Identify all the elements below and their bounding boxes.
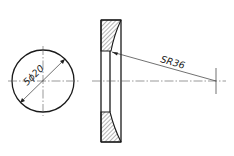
section-hatch-bottom: [101, 112, 121, 142]
section-hatch-top: [101, 20, 121, 51]
diameter-dimension-text: 5ϕ20: [21, 63, 46, 88]
technical-drawing: 5ϕ20 SR36: [0, 0, 234, 156]
front-view: 5ϕ20: [8, 46, 80, 116]
section-view: [92, 20, 226, 142]
radius-dimension-text: SR36: [159, 53, 186, 70]
radius-arrowhead: [112, 52, 118, 56]
radius-callout: SR36: [112, 52, 216, 94]
